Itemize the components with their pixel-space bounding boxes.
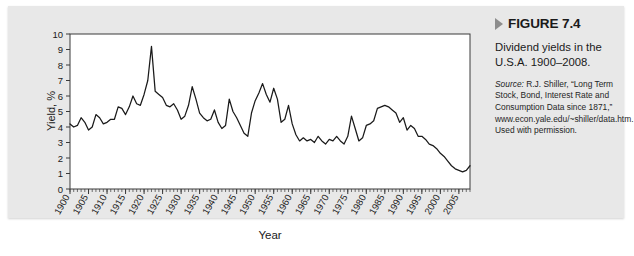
svg-text:1990: 1990 xyxy=(385,193,405,217)
svg-text:1940: 1940 xyxy=(200,193,220,217)
svg-text:3: 3 xyxy=(58,137,63,148)
svg-text:2005: 2005 xyxy=(441,193,461,217)
svg-text:1: 1 xyxy=(58,168,63,179)
svg-text:1955: 1955 xyxy=(255,193,275,217)
plot-area-background xyxy=(70,34,470,189)
svg-text:7: 7 xyxy=(58,75,63,86)
svg-text:1980: 1980 xyxy=(348,193,368,217)
chart-plot-panel: 012345678910 190019051910191519201925193… xyxy=(44,20,478,245)
svg-text:9: 9 xyxy=(58,44,63,55)
svg-text:5: 5 xyxy=(58,106,63,117)
source-keyword: Source: xyxy=(495,79,524,89)
svg-text:1925: 1925 xyxy=(144,193,164,217)
svg-text:1970: 1970 xyxy=(311,193,331,217)
svg-text:1910: 1910 xyxy=(89,193,109,217)
svg-text:6: 6 xyxy=(58,91,63,102)
svg-text:1900: 1900 xyxy=(52,193,72,217)
y-axis-title: Yield, % xyxy=(45,91,57,131)
svg-text:2000: 2000 xyxy=(422,193,442,217)
figure-card: 012345678910 190019051910191519201925193… xyxy=(8,6,624,218)
svg-text:1905: 1905 xyxy=(70,193,90,217)
svg-text:1950: 1950 xyxy=(237,193,257,217)
figure-heading: FIGURE 7.4 xyxy=(495,16,627,31)
figure-label: FIGURE 7.4 xyxy=(508,16,581,31)
svg-text:1995: 1995 xyxy=(403,193,423,217)
svg-text:1920: 1920 xyxy=(126,193,146,217)
svg-text:1965: 1965 xyxy=(292,193,312,217)
svg-text:2: 2 xyxy=(58,153,63,164)
x-axis-tick-labels: 1900190519101915192019251930193519401945… xyxy=(52,193,461,217)
triangle-right-icon xyxy=(495,18,503,30)
svg-text:1935: 1935 xyxy=(181,193,201,217)
svg-text:1915: 1915 xyxy=(107,193,127,217)
svg-text:1960: 1960 xyxy=(274,193,294,217)
figure-source: Source: R.J. Shiller, “Long Term Stock, … xyxy=(495,79,627,137)
y-axis-ticks xyxy=(66,34,70,189)
x-axis-title: Year xyxy=(258,229,281,241)
figure-caption: Dividend yields in the U.S.A. 1900–2008. xyxy=(495,40,627,70)
svg-text:1975: 1975 xyxy=(329,193,349,217)
dividend-yield-line-chart: 012345678910 190019051910191519201925193… xyxy=(44,20,478,245)
svg-text:8: 8 xyxy=(58,60,63,71)
svg-text:1930: 1930 xyxy=(163,193,183,217)
svg-text:4: 4 xyxy=(58,122,63,133)
svg-text:10: 10 xyxy=(52,29,63,40)
svg-text:1985: 1985 xyxy=(366,193,386,217)
svg-text:1945: 1945 xyxy=(218,193,238,217)
figure-sidebar: FIGURE 7.4 Dividend yields in the U.S.A.… xyxy=(495,16,627,216)
